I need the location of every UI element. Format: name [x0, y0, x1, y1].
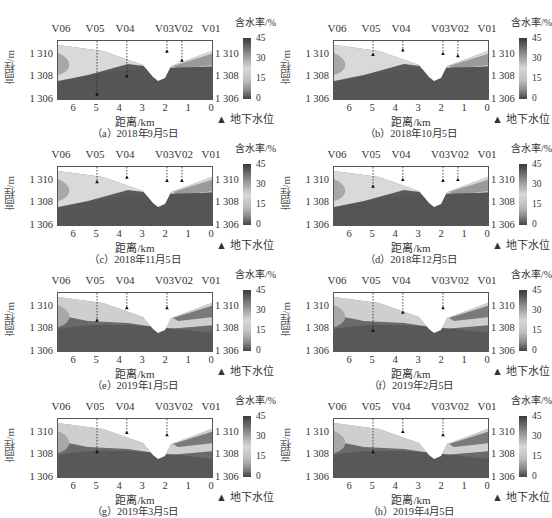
xtick-5: 5 — [93, 102, 98, 113]
well-label-v01: V01 — [202, 22, 221, 34]
xtick-5: 5 — [93, 228, 98, 239]
colorbar — [519, 416, 527, 477]
ytick-right-1308: 1 308 — [491, 322, 515, 333]
colorbar-title: 含水率/% — [511, 266, 552, 281]
ytick-right-1310: 1 310 — [215, 174, 239, 185]
ytick-left-1308: 1 308 — [29, 448, 53, 459]
xtick-0: 0 — [208, 102, 213, 113]
legend: ▲ 地下水位 — [492, 236, 550, 252]
y-axis-label: 高程/m — [278, 176, 294, 210]
colorbar — [243, 290, 251, 351]
well-label-v03v02: V03V02 — [155, 22, 193, 34]
xtick-2: 2 — [438, 102, 443, 113]
panel-b: 含水率/% V06 V05 V04 V03V02 V01 高程/m 1 310 … — [276, 2, 551, 129]
colorbar-tick-45: 45 — [532, 411, 542, 421]
well-label-v06: V06 — [328, 274, 347, 286]
well-label-v04: V04 — [392, 274, 411, 286]
panel-c: 含水率/% V06 V05 V04 V03V02 V01 高程/m 1 310 … — [0, 128, 275, 255]
ytick-right-1308: 1 308 — [215, 322, 239, 333]
y-axis-label: 高程/m — [2, 302, 18, 336]
ytick-right-1306: 1 306 — [491, 219, 515, 230]
well-label-v01: V01 — [478, 274, 497, 286]
xtick-0: 0 — [208, 354, 213, 365]
colorbar-title: 含水率/% — [235, 266, 276, 281]
well-label-v04: V04 — [392, 22, 411, 34]
colorbar-tick-45: 45 — [532, 159, 542, 169]
colorbar-tick-0: 0 — [256, 93, 261, 103]
xtick-1: 1 — [461, 228, 466, 239]
well-label-v05: V05 — [86, 22, 105, 34]
xtick-2: 2 — [438, 480, 443, 491]
colorbar — [519, 290, 527, 351]
colorbar-title: 含水率/% — [511, 140, 552, 155]
ytick-left-1306: 1 306 — [305, 471, 329, 482]
legend-label: 地下水位 — [230, 491, 274, 503]
colorbar-tick-30: 30 — [256, 305, 266, 315]
xtick-1: 1 — [185, 102, 190, 113]
ytick-left-1310: 1 310 — [29, 48, 53, 59]
xtick-0: 0 — [208, 480, 213, 491]
ytick-left-1308: 1 308 — [29, 70, 53, 81]
xtick-1: 1 — [461, 480, 466, 491]
colorbar — [519, 38, 527, 99]
colorbar-tick-45: 45 — [532, 285, 542, 295]
ytick-right-1308: 1 308 — [215, 196, 239, 207]
legend: ▲ 地下水位 — [216, 362, 274, 378]
well-label-v04: V04 — [116, 274, 135, 286]
ytick-right-1308: 1 308 — [215, 448, 239, 459]
panel-f: 含水率/% V06 V05 V04 V03V02 V01 高程/m 1 310 … — [276, 254, 551, 381]
well-label-v01: V01 — [202, 148, 221, 160]
xtick-3: 3 — [139, 102, 144, 113]
groundwater-triangle-icon: ▲ — [492, 365, 503, 377]
ytick-right-1308: 1 308 — [215, 70, 239, 81]
colorbar-tick-15: 15 — [256, 73, 266, 83]
well-label-v05: V05 — [362, 400, 381, 412]
ytick-left-1306: 1 306 — [305, 219, 329, 230]
heatmap-graphic — [58, 293, 213, 352]
xtick-4: 4 — [116, 354, 121, 365]
legend-label: 地下水位 — [506, 239, 550, 251]
moisture-section-plot — [57, 292, 213, 352]
xtick-6: 6 — [70, 102, 75, 113]
colorbar-tick-45: 45 — [256, 33, 266, 43]
xtick-5: 5 — [369, 228, 374, 239]
ytick-right-1310: 1 310 — [491, 426, 515, 437]
xtick-6: 6 — [346, 228, 351, 239]
colorbar-tick-15: 15 — [532, 451, 542, 461]
well-label-v06: V06 — [52, 22, 71, 34]
well-label-v01: V01 — [202, 400, 221, 412]
well-label-v03v02: V03V02 — [155, 148, 193, 160]
well-label-v04: V04 — [116, 400, 135, 412]
ytick-left-1308: 1 308 — [29, 196, 53, 207]
well-label-v03v02: V03V02 — [155, 400, 193, 412]
xtick-6: 6 — [346, 102, 351, 113]
ytick-left-1308: 1 308 — [29, 322, 53, 333]
colorbar-tick-0: 0 — [256, 471, 261, 481]
ytick-left-1306: 1 306 — [305, 345, 329, 356]
well-label-v06: V06 — [328, 400, 347, 412]
well-label-v04: V04 — [116, 22, 135, 34]
ytick-right-1306: 1 306 — [491, 93, 515, 104]
xtick-4: 4 — [392, 354, 397, 365]
xtick-6: 6 — [70, 354, 75, 365]
xtick-5: 5 — [369, 102, 374, 113]
groundwater-triangle-icon: ▲ — [492, 239, 503, 251]
ytick-right-1310: 1 310 — [215, 48, 239, 59]
panel-caption: （h）2019年4月5日 — [368, 503, 455, 518]
legend-label: 地下水位 — [506, 113, 550, 125]
xtick-3: 3 — [139, 480, 144, 491]
well-label-v01: V01 — [478, 148, 497, 160]
ytick-right-1306: 1 306 — [215, 471, 239, 482]
groundwater-triangle-icon: ▲ — [492, 491, 503, 503]
ytick-left-1308: 1 308 — [305, 322, 329, 333]
well-label-v03v02: V03V02 — [155, 274, 193, 286]
legend-label: 地下水位 — [506, 491, 550, 503]
groundwater-triangle-icon: ▲ — [216, 113, 227, 125]
ytick-left-1310: 1 310 — [29, 300, 53, 311]
xtick-4: 4 — [392, 228, 397, 239]
legend-label: 地下水位 — [230, 113, 274, 125]
legend: ▲ 地下水位 — [492, 488, 550, 504]
groundwater-triangle-icon: ▲ — [216, 491, 227, 503]
heatmap-graphic — [334, 167, 489, 226]
xtick-3: 3 — [415, 102, 420, 113]
